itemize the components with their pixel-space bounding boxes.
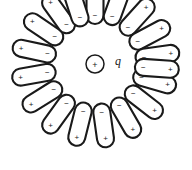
dipole-negative-sign: − [131,89,136,98]
dipole-negative-sign: − [93,11,98,20]
dipole-positive-sign: + [18,73,23,82]
center-charge-layer: + q [86,54,121,73]
dipole-positive-sign: + [144,3,149,12]
dipole-positive-sign: + [159,24,164,33]
dipole: −+ [134,58,179,78]
dipole-positive-sign: + [165,80,170,89]
dipole-negative-sign: − [99,108,104,117]
dipole-polarization-figure: −+−+−+−+−+−+−+−+−+−+−+−+−+−+−+−+−+−+ + q [0,0,192,170]
dipole-positive-sign: + [29,100,34,109]
dipole-negative-sign: − [81,107,86,116]
dipole-positive-sign: + [30,17,35,26]
dipole-positive-sign: + [19,44,24,53]
dipole-positive-sign: + [168,65,173,74]
dipole-negative-sign: − [110,12,115,21]
dipole-negative-sign: − [117,101,122,110]
dipole-negative-sign: − [135,37,140,46]
dipole-positive-sign: + [168,49,173,58]
dipole-negative-sign: − [45,49,50,58]
dipole-negative-sign: − [45,68,50,77]
center-charge-sign: + [92,60,97,70]
dipole-positive-sign: + [103,134,108,143]
dipole-negative-sign: − [64,99,69,108]
dipole-positive-sign: + [152,106,157,115]
dipole-negative-sign: − [52,85,57,94]
dipole-positive-sign: + [48,121,53,130]
dipole-negative-sign: − [126,23,131,32]
dipole-negative-sign: − [52,32,57,41]
dipole-positive-sign: + [74,133,79,142]
dipole-layer: −+−+−+−+−+−+−+−+−+−+−+−+−+−+−+−+−+−+ [11,0,181,148]
dipole-positive-sign: + [48,0,53,7]
dipole-negative-sign: − [64,20,69,29]
dipole-negative-sign: − [78,13,83,22]
dipole-positive-sign: + [130,125,135,134]
center-charge-label: q [115,54,121,68]
figure-canvas: −+−+−+−+−+−+−+−+−+−+−+−+−+−+−+−+−+−+ + q [0,0,192,170]
dipole-negative-sign: − [141,63,146,72]
